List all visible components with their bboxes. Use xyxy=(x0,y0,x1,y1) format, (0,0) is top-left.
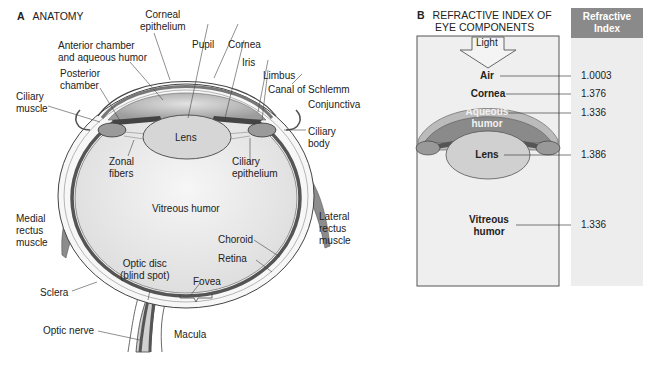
refractive-index-header: RefractiveIndex xyxy=(571,8,643,38)
label-retina: Retina xyxy=(218,253,247,265)
label-lens: Lens xyxy=(175,132,197,144)
component-vitreous-humor: Vitreoushumor xyxy=(462,214,516,238)
label-limbus: Limbus xyxy=(263,70,295,82)
index-lens: 1.386 xyxy=(581,149,606,161)
component-aqueous-humor: Aqueoushumor xyxy=(460,106,514,130)
component-lens: Lens xyxy=(470,149,504,161)
refractive-index-column xyxy=(571,8,643,286)
label-vitreous-humor: Vitreous humor xyxy=(152,203,220,215)
label-corneal-epithelium: Cornealepithelium xyxy=(140,9,186,33)
label-lateral-rectus: Lateralrectusmuscle xyxy=(319,211,351,247)
index-cornea: 1.376 xyxy=(581,88,606,100)
label-conjunctiva: Conjunctiva xyxy=(308,99,360,111)
light-label: Light xyxy=(476,37,498,49)
label-iris: Iris xyxy=(242,57,255,69)
label-canal-of-schlemm: Canal of Schlemm xyxy=(268,84,350,96)
label-fovea: Fovea xyxy=(193,276,221,288)
label-optic-disc: Optic disc(blind spot) xyxy=(120,258,169,282)
component-cornea: Cornea xyxy=(466,88,510,100)
label-anterior-chamber: Anterior chamberand aqueous humor xyxy=(58,40,147,64)
label-ciliary-muscle: Ciliarymuscle xyxy=(16,91,48,115)
index-air: 1.0003 xyxy=(581,70,612,82)
panel-a-title: AANATOMY xyxy=(17,10,84,22)
label-medial-rectus: Medialrectusmuscle xyxy=(16,213,48,249)
panel-b-letter: B xyxy=(417,9,425,21)
label-pupil: Pupil xyxy=(192,39,214,51)
label-macula: Macula xyxy=(174,329,206,341)
ciliary-body-left xyxy=(98,123,126,137)
ciliary-body-right xyxy=(248,123,276,137)
label-sclera: Sclera xyxy=(40,287,68,299)
label-cornea: Cornea xyxy=(228,39,261,51)
label-optic-nerve: Optic nerve xyxy=(43,325,94,337)
label-ciliary-epithelium: Ciliaryepithelium xyxy=(232,156,278,180)
label-choroid: Choroid xyxy=(218,234,253,246)
label-zonal-fibers: Zonalfibers xyxy=(109,156,134,180)
index-aqueous-humor: 1.336 xyxy=(581,107,606,119)
label-ciliary-body: Ciliarybody xyxy=(308,126,336,150)
component-air: Air xyxy=(472,70,502,82)
label-posterior-chamber: Posteriorchamber xyxy=(60,68,100,92)
index-vitreous-humor: 1.336 xyxy=(581,219,606,231)
panel-a-letter: A xyxy=(17,10,25,22)
panel-b-title: BREFRACTIVE INDEX OF EYE COMPONENTS xyxy=(417,9,552,33)
